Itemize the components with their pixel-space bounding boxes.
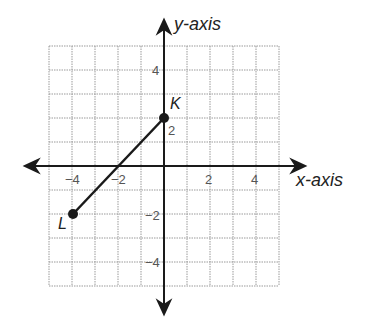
coordinate-plane: [0, 0, 368, 332]
x-tick-4: 4: [251, 172, 258, 187]
point-k: [159, 113, 169, 123]
x-tick-neg4: −4: [65, 172, 80, 187]
y-tick-neg2: −2: [145, 208, 160, 223]
point-l-label: L: [58, 215, 67, 233]
axes: [25, 20, 305, 314]
x-tick-neg2: −2: [111, 172, 126, 187]
y-tick-4: 4: [152, 63, 159, 78]
point-k-label: K: [170, 95, 181, 113]
y-axis-label: y-axis: [174, 14, 221, 35]
x-axis-label: x-axis: [296, 170, 343, 191]
y-tick-2: 2: [168, 123, 175, 138]
x-tick-2: 2: [205, 172, 212, 187]
y-tick-neg4: −4: [145, 255, 160, 270]
point-l: [68, 209, 78, 219]
